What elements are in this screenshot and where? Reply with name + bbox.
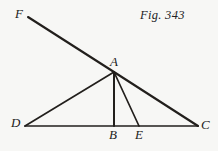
- segment-group: [25, 17, 198, 126]
- vertex-label-d: D: [11, 116, 20, 129]
- figure-caption: Fig. 343: [140, 9, 185, 22]
- vertex-label-a: A: [110, 55, 118, 68]
- line-DA: [25, 72, 114, 126]
- vertex-label-b: B: [109, 128, 117, 141]
- vertex-label-c: C: [201, 118, 210, 131]
- vertex-label-e: E: [135, 128, 143, 141]
- figure-container: F A D B E C Fig. 343: [0, 0, 218, 151]
- vertex-label-f: F: [15, 7, 23, 20]
